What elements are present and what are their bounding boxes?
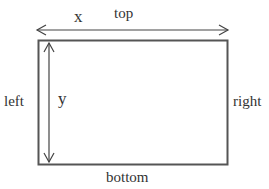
bottom-label: bottom: [106, 170, 149, 185]
x-label: x: [74, 9, 83, 24]
vertical-double-arrow: [44, 43, 54, 162]
top-label: top: [114, 6, 133, 21]
y-label: y: [58, 91, 67, 106]
left-label: left: [4, 94, 24, 109]
diagram-canvas: [0, 0, 269, 189]
right-label: right: [233, 94, 261, 109]
horizontal-double-arrow: [37, 25, 228, 35]
